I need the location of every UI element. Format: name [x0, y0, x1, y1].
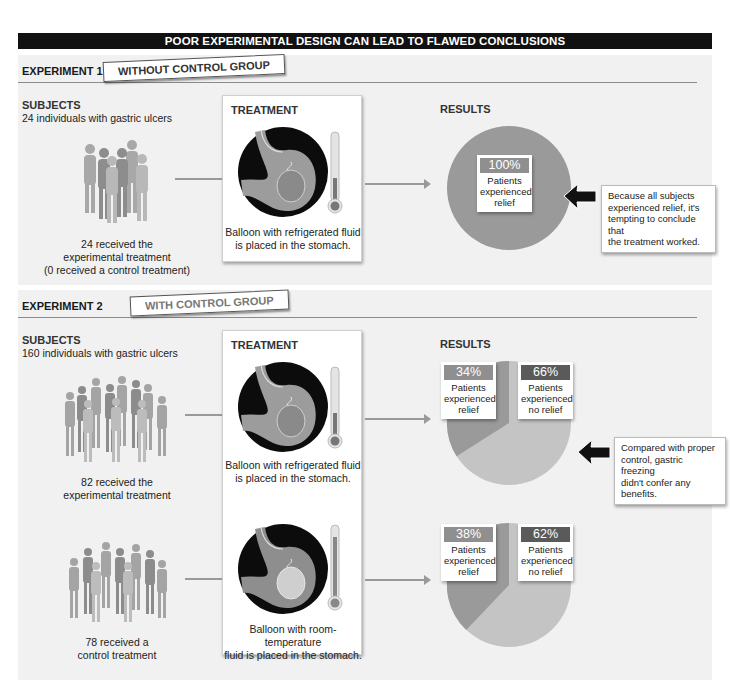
subjects-heading: SUBJECTS: [22, 99, 81, 111]
callout-arrow-icon: [564, 184, 598, 210]
label-line: Patients: [521, 544, 570, 555]
caption-line: control treatment: [22, 649, 212, 662]
caption-line: fluid is placed in the stomach.: [223, 649, 363, 662]
label-line: experienced: [444, 393, 493, 404]
percent-badge: 62%: [521, 527, 570, 542]
treatment-heading: TREATMENT: [231, 104, 298, 116]
percent-badge: 38%: [444, 527, 493, 542]
results-heading: RESULTS: [440, 338, 491, 350]
label-line: relief: [444, 566, 493, 577]
divider: [18, 82, 697, 83]
pie-label-relief: 38% Patients experienced relief: [441, 524, 496, 581]
subjects-heading: SUBJECTS: [22, 334, 81, 346]
caption-line: 24 received the: [22, 238, 212, 251]
people-group-icon: [60, 374, 172, 466]
treatment-caption-cold: Balloon with refrigerated fluid is place…: [223, 459, 363, 485]
subjects-description: 24 individuals with gastric ulcers: [22, 112, 172, 124]
treatment-panel: TREATMENT Balloon with refrigerated flui…: [222, 95, 362, 262]
callout-line: tempting to conclude that: [608, 213, 709, 236]
caption-line: is placed in the stomach.: [223, 239, 363, 252]
label-line: relief: [444, 404, 493, 415]
people-group-icon: [76, 137, 156, 227]
callout-arrow-icon: [578, 440, 612, 466]
caption-line: experimental treatment: [22, 251, 212, 264]
callout-line: the treatment worked.: [608, 236, 709, 248]
arrow-right-icon: [365, 418, 425, 420]
label-line: Patients: [444, 382, 493, 393]
callout-line: didn't confer any benefits.: [621, 477, 719, 500]
subjects-caption-control: 78 received a control treatment: [22, 636, 212, 662]
stomach-balloon-cold-icon: [237, 357, 349, 455]
label-line: experienced: [444, 555, 493, 566]
pie-label-no-relief: 66% Patients experienced no relief: [518, 362, 573, 419]
label-line: experienced: [480, 186, 529, 197]
caption-line: Balloon with refrigerated fluid: [223, 459, 363, 472]
subjects-description: 160 individuals with gastric ulcers: [22, 347, 178, 359]
divider: [18, 317, 697, 318]
experiment-1-tag: WITHOUT CONTROL GROUP: [103, 54, 286, 82]
caption-line: Balloon with room-temperature: [223, 623, 363, 649]
label-line: Patients: [480, 175, 529, 186]
caption-line: Balloon with refrigerated fluid: [223, 226, 363, 239]
pie-label-relief: 100% Patients experienced relief: [477, 155, 532, 212]
pie-label-no-relief: 62% Patients experienced no relief: [518, 524, 573, 581]
callout-line: control, gastric freezing: [621, 454, 719, 477]
label-line: Patients: [521, 382, 570, 393]
callout-note: Because all subjects experienced relief,…: [601, 185, 716, 253]
experiment-2-label: EXPERIMENT 2: [22, 300, 103, 312]
pie-label-relief: 34% Patients experienced relief: [441, 362, 496, 419]
arrow-right-icon: [185, 578, 225, 580]
experiment-2-section: EXPERIMENT 2 WITH CONTROL GROUP SUBJECTS…: [18, 290, 712, 680]
treatment-caption: Balloon with refrigerated fluid is place…: [223, 226, 363, 252]
percent-badge: 100%: [480, 158, 529, 173]
label-line: Patients: [444, 544, 493, 555]
subjects-caption: 24 received the experimental treatment (…: [22, 238, 212, 277]
percent-badge: 66%: [521, 365, 570, 380]
treatment-panel: TREATMENT Balloon with refrigerated flui…: [222, 330, 362, 655]
arrow-right-icon: [175, 178, 225, 180]
experiment-1-section: EXPERIMENT 1 WITHOUT CONTROL GROUP SUBJE…: [18, 55, 712, 285]
caption-line: 78 received a: [22, 636, 212, 649]
label-line: no relief: [521, 566, 570, 577]
callout-note: Compared with proper control, gastric fr…: [614, 437, 726, 505]
treatment-caption-room-temp: Balloon with room-temperature fluid is p…: [223, 623, 363, 662]
experiment-1-label: EXPERIMENT 1: [22, 65, 103, 77]
percent-badge: 34%: [444, 365, 493, 380]
caption-line: 82 received the: [22, 476, 212, 489]
label-line: relief: [480, 197, 529, 208]
experiment-2-tag: WITH CONTROL GROUP: [130, 290, 289, 317]
treatment-heading: TREATMENT: [231, 339, 298, 351]
callout-line: experienced relief, it's: [608, 202, 709, 214]
caption-line: (0 received a control treatment): [22, 264, 212, 277]
callout-line: Compared with proper: [621, 442, 719, 454]
arrow-right-icon: [365, 183, 425, 185]
results-heading: RESULTS: [440, 103, 491, 115]
label-line: experienced: [521, 393, 570, 404]
figure-title: POOR EXPERIMENTAL DESIGN CAN LEAD TO FLA…: [18, 33, 712, 49]
caption-line: is placed in the stomach.: [223, 472, 363, 485]
people-group-icon: [62, 538, 174, 624]
subjects-caption-experimental: 82 received the experimental treatment: [22, 476, 212, 502]
arrow-right-icon: [365, 579, 425, 581]
stomach-balloon-room-temp-icon: [237, 519, 349, 617]
callout-line: Because all subjects: [608, 190, 709, 202]
stomach-balloon-icon: [237, 122, 349, 220]
label-line: experienced: [521, 555, 570, 566]
arrow-right-icon: [185, 414, 225, 416]
caption-line: experimental treatment: [22, 489, 212, 502]
label-line: no relief: [521, 404, 570, 415]
